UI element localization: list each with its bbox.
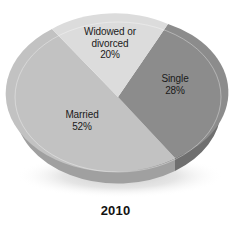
slice-label-widowed-line1: Widowed or — [84, 26, 136, 37]
slice-label-single-line1: Single — [161, 73, 188, 84]
slice-label-widowed-line2: divorced — [92, 38, 129, 49]
slice-label-married: Married 52% — [42, 109, 122, 132]
chart-caption-year: 2010 — [0, 203, 231, 218]
slice-value-widowed: 20% — [61, 49, 159, 61]
slice-label-married-line1: Married — [65, 109, 98, 120]
slice-label-widowed: Widowed or divorced 20% — [61, 26, 159, 61]
pie-chart-figure: Widowed or divorced 20% Single 28% Marri… — [0, 0, 231, 228]
slice-value-single: 28% — [142, 85, 208, 97]
slice-label-single: Single 28% — [142, 73, 208, 96]
slice-value-married: 52% — [42, 121, 122, 133]
